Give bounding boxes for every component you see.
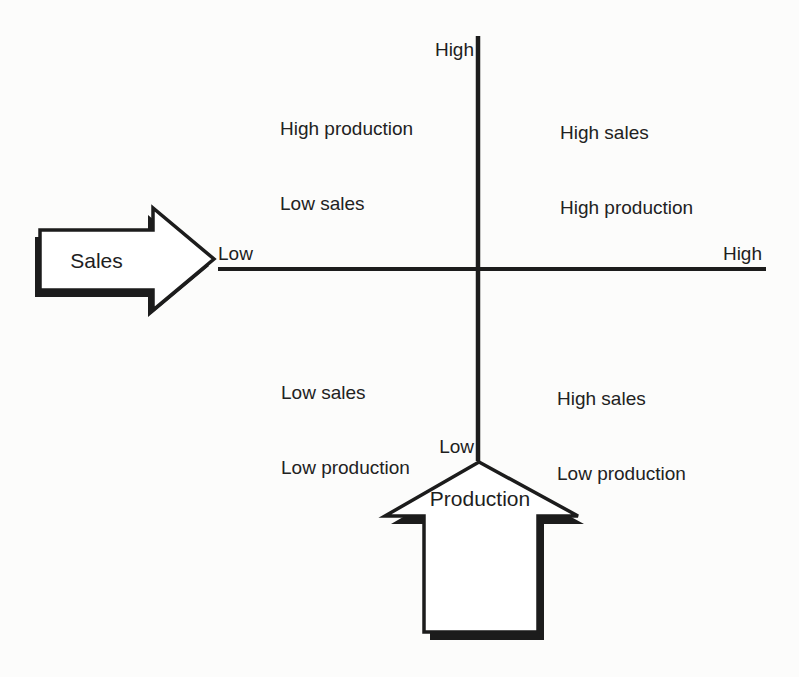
quadrant-diagram: High High Low Low Sales Production High … [0, 0, 799, 677]
quadrant-top-left-line2: Low sales [280, 191, 413, 216]
quadrant-top-right-label: High sales High production [560, 70, 693, 270]
quadrant-top-right-line2: High production [560, 195, 693, 220]
production-arrow-label: Production [424, 487, 536, 511]
quadrant-bottom-right-line2: Low production [557, 461, 686, 486]
quadrant-top-left-line1: High production [280, 116, 413, 141]
horizontal-axis-low-label: Low [218, 242, 253, 266]
quadrant-bottom-right-line1: High sales [557, 386, 686, 411]
quadrant-bottom-left-line1: Low sales [281, 380, 410, 405]
vertical-axis-low-label: Low [404, 435, 474, 459]
quadrant-top-left-label: High production Low sales [280, 66, 413, 266]
sales-arrow-label: Sales [40, 249, 153, 273]
quadrant-bottom-left-line2: Low production [281, 455, 410, 480]
quadrant-bottom-left-label: Low sales Low production [281, 330, 410, 530]
vertical-axis-high-label: High [404, 38, 474, 62]
quadrant-top-right-line1: High sales [560, 120, 693, 145]
horizontal-axis-high-label: High [700, 242, 762, 266]
quadrant-bottom-right-label: High sales Low production [557, 336, 686, 536]
